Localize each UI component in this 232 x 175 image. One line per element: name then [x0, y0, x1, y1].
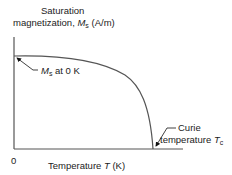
- x-label-prefix: Temperature: [48, 160, 104, 171]
- ms-symbol: M: [41, 65, 49, 76]
- curie-sub: c: [220, 139, 224, 146]
- curie-label-line1: Curie: [178, 122, 201, 133]
- y-label-prefix: magnetization,: [13, 17, 77, 28]
- y-axis-label-line1: Saturation: [41, 5, 84, 16]
- curie-prefix: temperature: [160, 134, 214, 145]
- y-axis-label-line2: magnetization, Ms (A/m): [13, 17, 115, 31]
- ms-arrow: [17, 58, 38, 70]
- ms-text: at 0 K: [52, 65, 79, 76]
- ms-at-0k-label: Ms at 0 K: [41, 65, 80, 79]
- curie-label-line2: temperature Tc: [160, 134, 223, 148]
- x-axis-label: Temperature T (K): [48, 160, 125, 171]
- origin-label: 0: [11, 155, 16, 166]
- x-label-unit: (K): [110, 160, 125, 171]
- y-label-unit: (A/m): [89, 17, 115, 28]
